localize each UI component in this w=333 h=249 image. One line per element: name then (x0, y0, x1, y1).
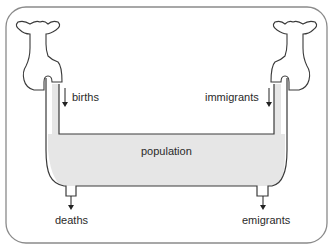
emigrants-label: emigrants (242, 215, 290, 226)
population-label: population (141, 146, 192, 157)
deaths-arrow-icon (68, 196, 74, 210)
births-arrow-icon (62, 88, 68, 107)
emigrants-arrow-icon (260, 196, 266, 210)
left-tap-stream (52, 84, 59, 134)
births-label: births (72, 92, 99, 103)
deaths-label: deaths (55, 215, 88, 226)
water-fill (48, 134, 285, 186)
right-tap-icon (271, 21, 317, 90)
bathtub-population-diagram (0, 0, 333, 249)
left-tap-icon (16, 21, 62, 90)
right-tap-stream (274, 84, 281, 134)
immigrants-arrow-icon (266, 88, 272, 107)
immigrants-label: immigrants (205, 92, 259, 103)
